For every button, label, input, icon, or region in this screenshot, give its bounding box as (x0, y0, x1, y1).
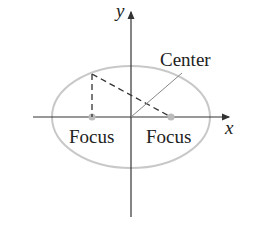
x-axis-label: x (224, 117, 234, 138)
y-axis-label: y (114, 0, 125, 21)
center-leader-line (131, 73, 182, 117)
ellipse-diagram: Center Focus Focus x y (0, 0, 255, 226)
center-label: Center (160, 49, 211, 70)
focus-right-label: Focus (146, 126, 191, 147)
focus-left-label: Focus (69, 126, 114, 147)
